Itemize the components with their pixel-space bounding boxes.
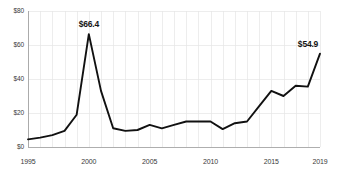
x-tick-label: 2019 [300, 158, 340, 165]
y-tick-label: $60 [2, 41, 24, 48]
end-label: $54.9 [281, 39, 335, 49]
x-tick-label: 1995 [8, 158, 48, 165]
peak-label: $66.4 [62, 19, 116, 29]
x-tick-label: 2010 [191, 158, 231, 165]
y-tick-label: $40 [2, 75, 24, 82]
x-tick-label: 2005 [130, 158, 170, 165]
line-chart: $0$20$40$60$80 199520002005201020152019 … [0, 0, 340, 183]
y-tick-label: $20 [2, 109, 24, 116]
chart-plot-area [0, 0, 340, 183]
vertical-gridlines [29, 11, 321, 147]
x-tick-label: 2000 [69, 158, 109, 165]
data-series-line [28, 34, 320, 139]
x-tick-label: 2015 [251, 158, 291, 165]
y-tick-label: $0 [2, 143, 24, 150]
y-tick-label: $80 [2, 7, 24, 14]
